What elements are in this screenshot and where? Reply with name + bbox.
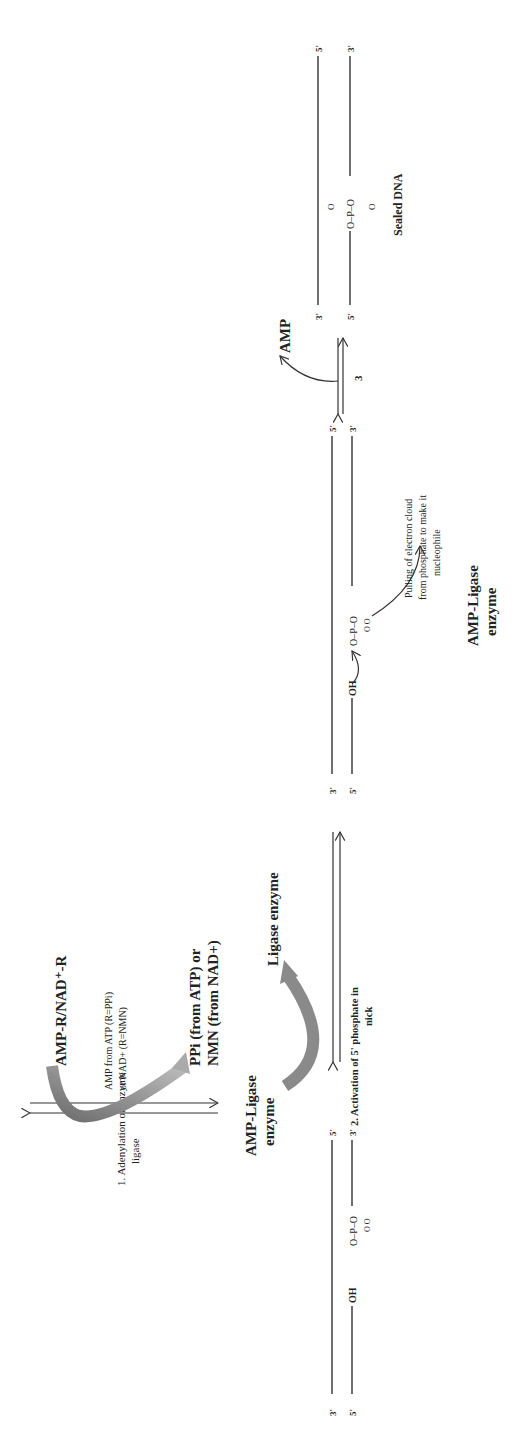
svg-text:5': 5'	[348, 787, 358, 794]
svg-text:3': 3'	[346, 45, 356, 52]
svg-text:ligase: ligase	[129, 1138, 141, 1164]
svg-text:O O: O O	[363, 618, 372, 632]
svg-text:3': 3'	[348, 1129, 358, 1136]
sealed-dna-label: Sealed DNA	[391, 173, 405, 236]
svg-text:O: O	[326, 203, 336, 210]
amp-ligase-label-1: AMP-Ligase	[243, 1075, 259, 1156]
ligase-mechanism-diagram: 3' 5' 5' 3' OH O–P–O O O 1. Adenylation …	[0, 0, 529, 1446]
svg-text:nucleophile: nucleophile	[431, 529, 442, 576]
svg-text:nick: nick	[363, 1007, 374, 1026]
svg-text:enzyme: enzyme	[261, 1097, 277, 1146]
step2-label: 2. Activation of 5' phosphate in	[349, 987, 360, 1126]
amp-ligase-label-2: AMP-Ligase	[465, 565, 481, 646]
nicked-dna-start: 3' 5' 5' 3' OH O–P–O O O	[328, 1129, 372, 1416]
step2-equilibrium-arrows	[333, 832, 340, 1062]
svg-text:5': 5'	[328, 425, 338, 432]
step2-curved-arrow	[285, 976, 313, 1086]
svg-text:O O: O O	[363, 1218, 372, 1232]
three-prime-label: 3'	[328, 1409, 338, 1416]
svg-text:NMN (from NAD+): NMN (from NAD+)	[205, 940, 222, 1066]
sealed-dna: 3' 5' 5' 3' O–P–O O O	[314, 45, 377, 320]
nucleophilic-attack-arrow	[352, 651, 359, 684]
svg-text:5': 5'	[346, 313, 356, 320]
svg-text:3': 3'	[348, 425, 358, 432]
svg-text:or NAD+ (R=NMN): or NAD+ (R=NMN)	[117, 1007, 129, 1090]
five-prime-label: 5'	[348, 1409, 358, 1416]
svg-text:3': 3'	[328, 787, 338, 794]
amp-release-label: AMP	[277, 319, 293, 353]
hydroxyl-label: OH	[347, 1287, 358, 1303]
svg-text:OH: OH	[347, 680, 358, 696]
svg-text:5': 5'	[328, 1129, 338, 1136]
svg-text:O–P–O: O–P–O	[348, 616, 359, 646]
amp-source-note: AMP from ATP (R=PPi)	[103, 992, 115, 1090]
phosphate-group: O–P–O	[348, 1216, 359, 1246]
step3-label: 3	[352, 375, 364, 381]
nicked-dna-intermediate: 3' 5' 5' 3' OH O–P–O O O	[328, 425, 420, 794]
electron-pull-note: Pulling of electron cloud	[403, 499, 414, 598]
ligase-enzyme-label: Ligase enzyme	[265, 872, 281, 966]
amp-release-arrow	[280, 356, 338, 381]
svg-text:O: O	[367, 203, 377, 210]
step3-equilibrium-arrows	[338, 338, 343, 414]
phosphodiester-bond: O–P–O	[345, 199, 356, 229]
svg-text:3': 3'	[314, 313, 324, 320]
svg-text:enzyme: enzyme	[483, 587, 499, 636]
svg-text:from phosphate to make it: from phosphate to make it	[417, 495, 428, 600]
svg-text:5': 5'	[314, 45, 324, 52]
pyrophosphate-label: PPi (from ATP) or	[187, 948, 204, 1066]
substrate-label: AMP-R/NAD⁺-R	[53, 955, 69, 1066]
